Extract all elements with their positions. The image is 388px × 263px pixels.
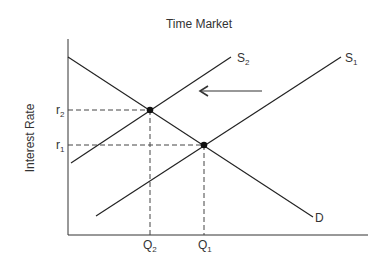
s1-label: S1 <box>345 51 358 67</box>
equilibrium-point-1 <box>201 142 208 149</box>
equilibrium-point-2 <box>147 107 154 114</box>
d-label: D <box>315 211 324 225</box>
r1-label: r1 <box>56 138 65 154</box>
q2-label: Q2 <box>143 238 157 254</box>
s2-label: S2 <box>237 51 250 67</box>
shift-left-arrow-icon <box>200 86 262 96</box>
r2-label: r2 <box>56 103 65 119</box>
time-market-chart: Time Market Interest Rate S2 S1 D r2 r1 … <box>0 0 388 263</box>
supply-s1-line <box>96 57 341 216</box>
q1-label: Q1 <box>198 238 212 254</box>
y-axis-label: Interest Rate <box>23 103 37 172</box>
chart-title: Time Market <box>166 17 233 31</box>
demand-line <box>68 57 313 217</box>
